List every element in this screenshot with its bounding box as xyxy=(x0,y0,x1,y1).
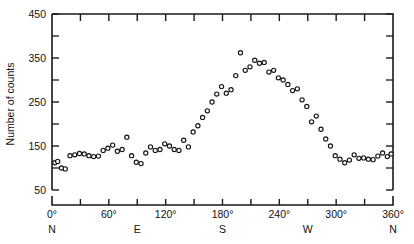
data-point xyxy=(248,65,252,69)
y-tick-label-3: 350 xyxy=(28,52,46,64)
data-point xyxy=(120,147,124,151)
data-point xyxy=(111,143,115,147)
data-point xyxy=(125,135,129,139)
data-point xyxy=(153,148,157,152)
chart-figure: 0°60°120°180°240°300°360° NESWN 50150250… xyxy=(0,0,414,244)
data-point xyxy=(324,137,328,141)
data-point xyxy=(389,152,393,156)
data-point xyxy=(305,104,309,108)
data-point xyxy=(234,74,238,78)
data-point xyxy=(343,161,347,165)
data-point xyxy=(219,85,223,89)
data-point xyxy=(63,167,67,171)
data-point xyxy=(276,76,280,80)
x-tick-label-0: 0° xyxy=(47,208,57,220)
x-tick-label-3: 180° xyxy=(212,208,234,220)
data-point xyxy=(272,68,276,72)
data-point xyxy=(229,88,233,92)
data-point xyxy=(82,152,86,156)
compass-label-e-1: E xyxy=(134,223,141,235)
data-point xyxy=(148,145,152,149)
y-axis-ticks xyxy=(52,14,393,190)
data-point xyxy=(73,153,77,157)
y-axis-tick-labels: 50150250350450 xyxy=(28,8,46,196)
data-point xyxy=(167,144,171,148)
data-point xyxy=(253,58,257,62)
y-tick-label-2: 250 xyxy=(28,96,46,108)
data-point xyxy=(238,51,242,55)
x-tick-label-2: 120° xyxy=(155,208,177,220)
data-point xyxy=(267,70,271,74)
data-point xyxy=(56,159,60,163)
data-point xyxy=(380,151,384,155)
y-tick-label-1: 150 xyxy=(28,140,46,152)
data-point xyxy=(158,147,162,151)
compass-label-n-4: N xyxy=(389,223,397,235)
data-point xyxy=(215,92,219,96)
data-point xyxy=(300,98,304,102)
data-point xyxy=(77,151,81,155)
x-tick-label-1: 60° xyxy=(101,208,117,220)
x-tick-label-4: 240° xyxy=(268,208,290,220)
data-point xyxy=(144,151,148,155)
data-point xyxy=(362,156,366,160)
data-point xyxy=(172,147,176,151)
data-point xyxy=(191,130,195,134)
data-point xyxy=(163,142,167,146)
data-point xyxy=(96,154,100,158)
data-point xyxy=(186,145,190,149)
data-point xyxy=(262,60,266,64)
data-point xyxy=(134,160,138,164)
data-points xyxy=(53,51,393,171)
data-point xyxy=(347,158,351,162)
data-point xyxy=(92,154,96,158)
data-point xyxy=(376,154,380,158)
data-point xyxy=(286,82,290,86)
data-point xyxy=(328,144,332,148)
data-point xyxy=(196,124,200,128)
data-point xyxy=(371,158,375,162)
data-point xyxy=(87,154,91,158)
data-point xyxy=(177,148,181,152)
data-point xyxy=(101,148,105,152)
plot-frame xyxy=(52,14,393,205)
data-point xyxy=(182,138,186,142)
data-point xyxy=(366,157,370,161)
data-point xyxy=(295,87,299,91)
data-point xyxy=(309,120,313,124)
data-point xyxy=(338,157,342,161)
data-point xyxy=(224,91,228,95)
data-point xyxy=(314,114,318,118)
x-axis-tick-labels: 0°60°120°180°240°300°360° xyxy=(47,208,404,220)
data-point xyxy=(319,127,323,131)
data-point xyxy=(201,115,205,119)
y-tick-label-4: 450 xyxy=(28,8,46,20)
data-point xyxy=(106,146,110,150)
data-point xyxy=(290,88,294,92)
compass-label-s-2: S xyxy=(219,223,226,235)
data-point xyxy=(257,61,261,65)
y-axis-title: Number of counts xyxy=(4,63,16,146)
compass-label-w-3: W xyxy=(303,223,313,235)
data-point xyxy=(333,154,337,158)
compass-direction-labels: NESWN xyxy=(48,223,397,235)
data-point xyxy=(243,68,247,72)
data-point xyxy=(68,154,72,158)
data-point xyxy=(129,154,133,158)
data-point xyxy=(115,149,119,153)
scatter-plot-svg: 0°60°120°180°240°300°360° NESWN 50150250… xyxy=(0,0,414,244)
compass-label-n-0: N xyxy=(48,223,56,235)
data-point xyxy=(281,78,285,82)
x-axis-ticks xyxy=(80,14,364,205)
plot-box xyxy=(52,14,393,190)
data-point xyxy=(139,162,143,166)
data-point xyxy=(210,100,214,104)
data-point xyxy=(357,156,361,160)
y-tick-label-0: 50 xyxy=(34,184,46,196)
data-point xyxy=(352,153,356,157)
x-tick-label-5: 300° xyxy=(325,208,347,220)
x-tick-label-6: 360° xyxy=(382,208,404,220)
data-point xyxy=(205,109,209,113)
